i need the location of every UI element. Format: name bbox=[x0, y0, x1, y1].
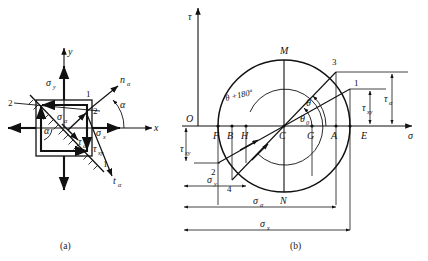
sigma-x-sub: x bbox=[102, 133, 106, 140]
caption-b: (b) bbox=[290, 241, 301, 251]
angle-label-theta0-sub: 0 bbox=[306, 119, 310, 126]
dim-label-tau-xy-left: τ bbox=[180, 143, 184, 154]
point-label-4: 4 bbox=[227, 184, 232, 194]
dim-label-tau-xy-left-sub: xy bbox=[184, 149, 191, 156]
figure-root: y x σ y σ x τ xy σ α τ α n α t α α α 1 1… bbox=[0, 0, 428, 261]
angle-label-theta0: θ bbox=[300, 113, 305, 124]
dim-label-sigma-x-sub: x bbox=[266, 224, 270, 231]
tau-alpha-label: τ bbox=[78, 136, 82, 147]
point-label-G: G bbox=[307, 130, 314, 141]
origin-label: O bbox=[186, 113, 193, 124]
point-label-H: H bbox=[240, 130, 249, 141]
axis-label-x: x bbox=[153, 122, 159, 133]
normal-dir-sub: α bbox=[127, 80, 131, 87]
point-label-1: 1 bbox=[354, 78, 359, 88]
point-label-F: F bbox=[212, 130, 220, 141]
tau-xy-label: τ bbox=[93, 143, 97, 154]
section-label-2-left: 2 bbox=[8, 98, 13, 108]
tangent-dir-sub: α bbox=[118, 181, 122, 188]
point-label-A: A bbox=[330, 130, 338, 141]
sigma-y-label: σ bbox=[46, 77, 52, 88]
section-label-1-top: 1 bbox=[86, 89, 91, 99]
axis-label-y: y bbox=[67, 46, 73, 57]
dim-label-tau-xy-sub: xy bbox=[366, 108, 373, 115]
axis-label-tau: τ bbox=[188, 11, 192, 22]
caption-a: (a) bbox=[60, 241, 71, 251]
tau-xy-sub: xy bbox=[97, 149, 104, 156]
sigma-alpha-label: σ bbox=[57, 111, 63, 122]
dim-label-sigma-y-sub: y bbox=[213, 180, 217, 187]
angle-label-theta: θ bbox=[306, 97, 311, 108]
dim-label-sigma-alpha: σ bbox=[253, 195, 259, 206]
section-label-1-bottom: 1 bbox=[103, 159, 108, 169]
angle-alpha-inner: α bbox=[44, 125, 50, 136]
point-label-C: C bbox=[279, 130, 286, 141]
sigma-alpha-sub: α bbox=[64, 117, 68, 124]
angle-alpha-outer: α bbox=[120, 99, 126, 110]
point-label-E: E bbox=[360, 130, 367, 141]
dim-label-sigma-x: σ bbox=[260, 218, 266, 229]
dim-label-tau-alpha: τ bbox=[384, 93, 388, 104]
section-label-2-right: 2 bbox=[93, 106, 98, 116]
normal-dir-label: n bbox=[120, 74, 125, 85]
panel-b-svg: τ σ O F B H C G A E M N 1 2 3 4 θ θ 0 θ … bbox=[180, 0, 428, 261]
tangent-dir-label: t bbox=[113, 175, 116, 186]
point-label-B: B bbox=[227, 130, 233, 141]
point-label-M: M bbox=[279, 45, 289, 56]
sigma-y-sub: y bbox=[52, 83, 56, 90]
point-label-3: 3 bbox=[332, 57, 337, 67]
axis-label-sigma: σ bbox=[408, 130, 414, 141]
point-label-N: N bbox=[279, 195, 288, 206]
dim-label-tau-xy: τ bbox=[362, 102, 366, 113]
